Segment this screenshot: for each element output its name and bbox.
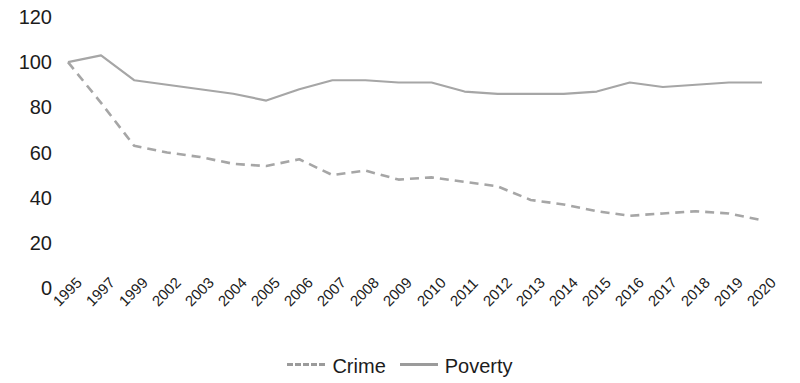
legend-item-poverty[interactable]: Poverty <box>400 356 513 376</box>
x-tick-label: 2007 <box>314 274 348 308</box>
x-tick-label: 2003 <box>182 274 216 308</box>
x-tick-label: 2013 <box>513 274 547 308</box>
x-tick-label: 2004 <box>215 274 249 308</box>
x-tick-label: 2014 <box>546 274 580 308</box>
x-tick-label: 2019 <box>711 274 745 308</box>
x-tick-label: 2020 <box>744 274 778 308</box>
x-tick-label: 1997 <box>83 274 117 308</box>
x-tick-label: 2018 <box>678 274 712 308</box>
x-tick-label: 2011 <box>447 275 480 308</box>
x-axis: 1995199719992002200320042005200620072008… <box>0 0 800 383</box>
legend-label-crime: Crime <box>332 356 385 376</box>
x-tick-label: 2002 <box>149 274 183 308</box>
chart-legend: Crime Poverty <box>0 352 800 380</box>
x-tick-label: 2008 <box>347 274 381 308</box>
x-tick-label: 1995 <box>50 274 84 308</box>
legend-line-dashed-icon <box>287 363 325 370</box>
x-tick-label: 2006 <box>281 274 315 308</box>
legend-line-solid-icon <box>400 363 438 370</box>
x-tick-label: 2005 <box>248 274 282 308</box>
x-tick-label: 2017 <box>645 274 679 308</box>
x-tick-label: 2010 <box>414 274 448 308</box>
x-tick-label: 2015 <box>579 274 613 308</box>
line-chart: 120100806040200 199519971999200220032004… <box>0 0 800 383</box>
x-tick-label: 2016 <box>612 274 646 308</box>
legend-item-crime[interactable]: Crime <box>287 356 385 376</box>
x-tick-label: 2012 <box>480 274 514 308</box>
x-tick-label: 2009 <box>380 274 414 308</box>
legend-label-poverty: Poverty <box>445 356 513 376</box>
x-tick-label: 1999 <box>116 274 150 308</box>
